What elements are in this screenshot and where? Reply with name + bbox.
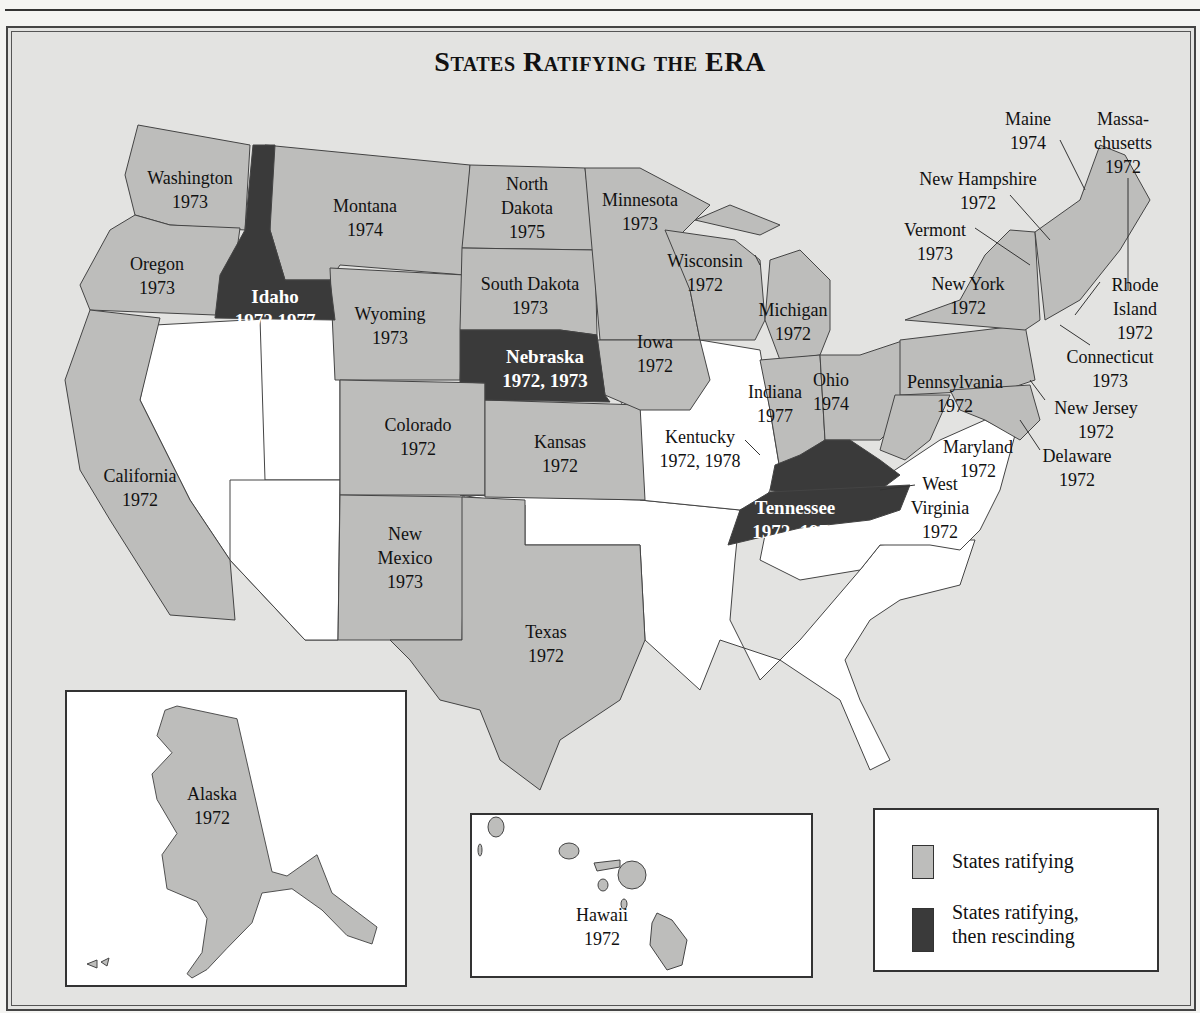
label-tennessee: Tennessee1972, 1974	[752, 496, 838, 544]
label-vermont: Vermont1973	[904, 218, 966, 266]
legend-swatch-rescinding	[912, 908, 934, 952]
label-michigan: Michigan1972	[759, 298, 828, 346]
legend: States ratifying States ratifying,then r…	[873, 808, 1159, 972]
label-kentucky: Kentucky1972, 1978	[660, 425, 741, 473]
label-minnesota: Minnesota1973	[602, 188, 678, 236]
legend-swatch-ratifying	[912, 845, 934, 879]
state-utah	[260, 315, 340, 480]
label-alaska: Alaska1972	[187, 782, 237, 830]
label-maryland: Maryland1972	[943, 435, 1013, 483]
legend-item-rescinding: States ratifying,then rescinding	[912, 900, 1079, 952]
label-pennsylvania: Pennsylvania1972	[907, 370, 1003, 418]
label-wisconsin: Wisconsin1972	[667, 249, 742, 297]
label-idaho: Idaho1972,1977	[235, 285, 316, 333]
label-massachusetts: Massa-chusetts1972	[1094, 107, 1152, 179]
label-wyoming: Wyoming1973	[355, 302, 426, 350]
label-kansas: Kansas1972	[534, 430, 586, 478]
label-washington: Washington1973	[147, 166, 233, 214]
hawaii-shape	[472, 815, 811, 976]
label-new-jersey: New Jersey1972	[1054, 396, 1137, 444]
label-ohio: Ohio1974	[813, 368, 849, 416]
label-hawaii: Hawaii1972	[576, 903, 628, 951]
legend-item-ratifying: States ratifying	[912, 845, 1074, 879]
label-indiana: Indiana1977	[748, 380, 802, 428]
alaska-shape	[67, 692, 405, 985]
label-south-dakota: South Dakota1973	[481, 272, 580, 320]
label-new-york: New York1972	[931, 272, 1004, 320]
label-colorado: Colorado1972	[385, 413, 452, 461]
label-california: California1972	[104, 464, 177, 512]
label-montana: Montana1974	[333, 194, 397, 242]
state-arizona	[230, 480, 340, 640]
label-maine: Maine1974	[1005, 107, 1051, 155]
label-iowa: Iowa1972	[637, 330, 673, 378]
label-connecticut: Connecticut1973	[1067, 345, 1154, 393]
label-rhode-island: RhodeIsland1972	[1112, 273, 1159, 345]
label-texas: Texas1972	[525, 620, 567, 668]
label-new-hampshire: New Hampshire1972	[919, 167, 1036, 215]
label-new-mexico: NewMexico1973	[378, 522, 433, 594]
alaska-inset: Alaska1972	[65, 690, 407, 987]
state-michigan-up	[695, 205, 780, 235]
label-delaware: Delaware1972	[1043, 444, 1112, 492]
hawaii-inset: Hawaii1972	[470, 813, 813, 978]
label-oregon: Oregon1973	[130, 252, 184, 300]
label-nebraska: Nebraska1972, 1973	[502, 345, 588, 393]
label-north-dakota: NorthDakota1975	[501, 172, 553, 244]
